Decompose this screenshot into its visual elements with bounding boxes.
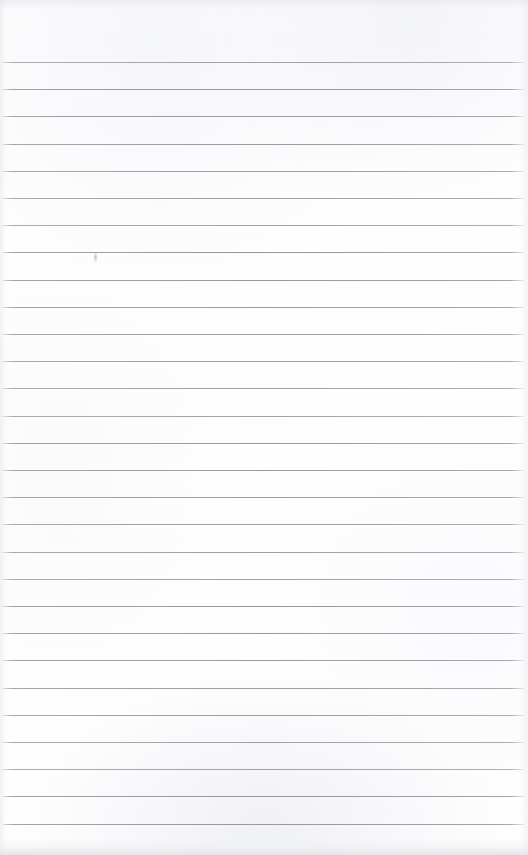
- ruled-line: [2, 171, 524, 172]
- ruled-line: [2, 307, 524, 308]
- ruled-line: [2, 769, 524, 770]
- ruled-line: [2, 62, 524, 63]
- ruled-line: [2, 361, 524, 362]
- ruled-line: [2, 416, 524, 417]
- scanned-page: [0, 0, 528, 855]
- ruled-line: [2, 388, 524, 389]
- ruled-line: [2, 824, 524, 825]
- ruled-line: [2, 633, 524, 634]
- ruled-line: [2, 89, 524, 90]
- ruled-line: [2, 552, 524, 553]
- ruled-line: [2, 742, 524, 743]
- ruled-line: [2, 524, 524, 525]
- ruled-line: [2, 796, 524, 797]
- ruled-line: [2, 198, 524, 199]
- ruled-line: [2, 334, 524, 335]
- ruled-line: [2, 252, 524, 253]
- ruled-lines-layer: [0, 0, 528, 855]
- ruled-line: [2, 579, 524, 580]
- ruled-line: [2, 715, 524, 716]
- ruled-line: [2, 470, 524, 471]
- ruled-line: [2, 688, 524, 689]
- ruled-line: [2, 225, 524, 226]
- ruled-line: [2, 606, 524, 607]
- ruled-line: [2, 144, 524, 145]
- ruled-line: [2, 497, 524, 498]
- ruled-line: [2, 660, 524, 661]
- ruled-line: [2, 280, 524, 281]
- ruled-line: [2, 443, 524, 444]
- ruled-line: [2, 116, 524, 117]
